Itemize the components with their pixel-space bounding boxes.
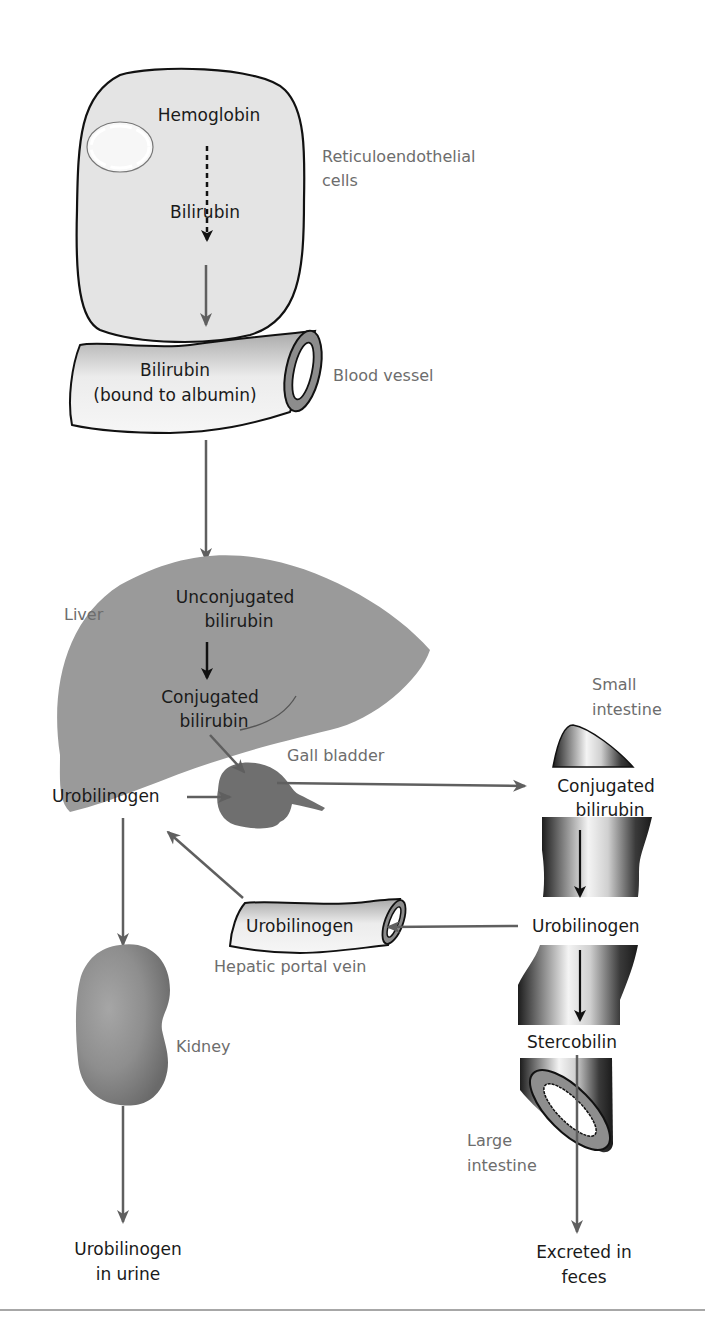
arrow-gallbladder-to-intestine [277,783,525,786]
blood-vessel-label: Blood vessel [333,366,434,385]
urobilinogen-portal-label: Urobilinogen [246,916,354,936]
re-cells-label-2: cells [322,171,358,190]
urobilinogen-liver-label: Urobilinogen [52,786,160,806]
conjugated-liver-label-2: bilirubin [179,711,248,731]
gall-bladder [217,763,325,829]
urobilinogen-intestine-label: Urobilinogen [532,916,640,936]
hemoglobin-label: Hemoglobin [158,105,260,125]
blood-vessel [70,327,328,433]
bilirubin-bound-label-2: (bound to albumin) [93,385,256,405]
arrow-intestine-to-portal [388,926,518,927]
feces-label-2: feces [561,1267,606,1287]
stercobilin-label: Stercobilin [527,1032,617,1052]
conjugated-liver-label: Conjugated [161,687,259,707]
red-blood-cell-icon [87,122,153,172]
arrow-portal-to-liver [168,832,243,898]
bilirubin-pathway-diagram: Hemoglobin Bilirubin Reticuloendothelial… [0,0,705,1325]
kidney [76,944,170,1105]
kidney-label: Kidney [176,1037,231,1056]
urine-label-2: in urine [96,1264,161,1284]
small-intestine-label-2: intestine [592,700,662,719]
bilirubin-cell-label: Bilirubin [170,202,240,222]
hepatic-portal-vein-label: Hepatic portal vein [214,957,366,976]
large-intestine-label-2: intestine [467,1156,537,1175]
feces-label: Excreted in [536,1242,632,1262]
gall-bladder-label: Gall bladder [287,746,385,765]
urine-label: Urobilinogen [74,1239,182,1259]
conjugated-intestine-label-2: bilirubin [575,800,644,820]
bilirubin-bound-label: Bilirubin [140,360,210,380]
large-intestine-label: Large [467,1131,512,1150]
liver-label: Liver [64,605,104,624]
re-cells-label: Reticuloendothelial [322,147,475,166]
conjugated-intestine-label: Conjugated [557,776,655,796]
unconjugated-label: Unconjugated [176,587,294,607]
unconjugated-label-2: bilirubin [204,611,273,631]
small-intestine-label: Small [592,675,636,694]
